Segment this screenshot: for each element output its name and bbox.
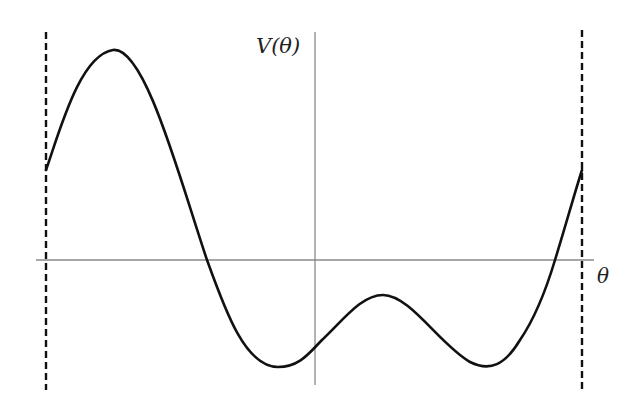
x-axis-label: θ [597, 264, 609, 288]
potential-plot: V(θ) θ [0, 0, 633, 408]
potential-curve [46, 50, 582, 367]
y-axis-label: V(θ) [256, 34, 300, 58]
